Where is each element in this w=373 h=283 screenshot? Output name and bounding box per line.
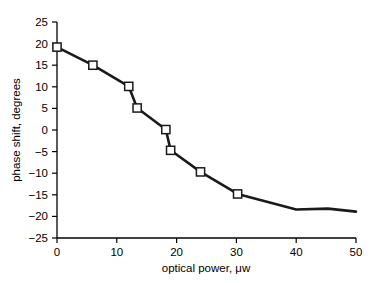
chart-figure: −25−20−15−10−50510152025 01020304050 opt… xyxy=(0,0,373,283)
phase-shift-vs-optical-power-chart: −25−20−15−10−50510152025 01020304050 opt… xyxy=(0,0,373,283)
axis-spines xyxy=(57,22,356,238)
x-tick-label-20: 20 xyxy=(170,246,183,258)
x-tick-label-30: 30 xyxy=(230,246,243,258)
data-marker-7 xyxy=(234,190,242,198)
data-marker-0 xyxy=(53,43,61,51)
y-tick-label--10: −10 xyxy=(28,167,48,179)
data-marker-5 xyxy=(167,146,175,154)
y-axis-title: phase shift, degrees xyxy=(10,78,22,182)
data-marker-1 xyxy=(89,61,97,69)
y-tick-label--15: −15 xyxy=(28,189,48,201)
data-marker-2 xyxy=(125,82,133,90)
y-tick-label--5: −5 xyxy=(35,146,48,158)
data-marker-3 xyxy=(133,104,141,112)
x-tick-label-10: 10 xyxy=(110,246,123,258)
y-axis-ticks xyxy=(52,22,57,238)
x-tick-label-0: 0 xyxy=(54,246,60,258)
y-tick-label-10: 10 xyxy=(35,81,48,93)
x-axis-title: optical power, μw xyxy=(162,262,251,274)
x-axis-ticks xyxy=(57,238,356,243)
data-marker-6 xyxy=(196,168,204,176)
y-tick-label-15: 15 xyxy=(35,59,48,71)
y-tick-label--20: −20 xyxy=(28,210,48,222)
x-tick-label-50: 50 xyxy=(350,246,363,258)
data-line-phase-shift xyxy=(57,47,356,212)
data-marker-4 xyxy=(162,125,170,133)
y-tick-label--25: −25 xyxy=(28,232,48,244)
y-axis-tick-labels: −25−20−15−10−50510152025 xyxy=(28,16,48,244)
x-axis-tick-labels: 01020304050 xyxy=(54,246,363,258)
y-tick-label-5: 5 xyxy=(42,102,48,114)
y-tick-label-25: 25 xyxy=(35,16,48,28)
y-tick-label-0: 0 xyxy=(42,124,48,136)
y-tick-label-20: 20 xyxy=(35,38,48,50)
x-tick-label-40: 40 xyxy=(290,246,303,258)
data-markers-phase-shift xyxy=(53,43,242,198)
